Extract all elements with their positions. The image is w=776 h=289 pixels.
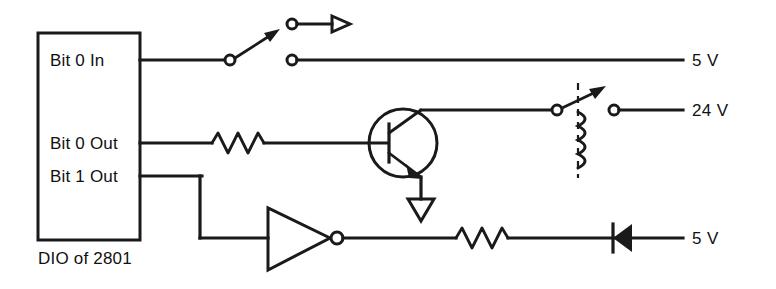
circuit-diagram: Bit 0 In Bit 0 Out Bit 1 Out 5 V 24 V 5 … bbox=[0, 0, 776, 289]
pin-label-bit0-in: Bit 0 In bbox=[50, 51, 105, 70]
signal-arrow-icon bbox=[332, 16, 350, 32]
switch-blade-arrow-icon bbox=[264, 29, 280, 42]
transistor-collector-lead bbox=[389, 110, 421, 133]
resistor-base-icon bbox=[212, 133, 264, 153]
pin-label-bit0-out: Bit 0 Out bbox=[50, 134, 118, 153]
circuit-schematic-canvas: Bit 0 In Bit 0 Out Bit 1 Out 5 V 24 V 5 … bbox=[0, 0, 776, 289]
ground-icon bbox=[408, 199, 434, 221]
supply-label-top-5v: 5 V bbox=[692, 51, 719, 70]
resistor-pullup-icon bbox=[456, 228, 508, 248]
supply-label-24v: 24 V bbox=[692, 101, 729, 120]
relay-contact-terminal-icon bbox=[552, 105, 562, 115]
inverter-gate-icon bbox=[268, 208, 330, 270]
supply-label-bottom-5v: 5 V bbox=[692, 229, 719, 248]
diode-icon bbox=[613, 224, 632, 252]
coil-icon bbox=[578, 112, 585, 168]
inverter-bubble-icon bbox=[331, 232, 343, 244]
switch-pivot-terminal-icon bbox=[225, 55, 235, 65]
pin-label-bit1-out: Bit 1 Out bbox=[50, 167, 118, 186]
relay-blade-arrow-icon bbox=[589, 86, 606, 99]
block-caption: DIO of 2801 bbox=[38, 249, 132, 268]
